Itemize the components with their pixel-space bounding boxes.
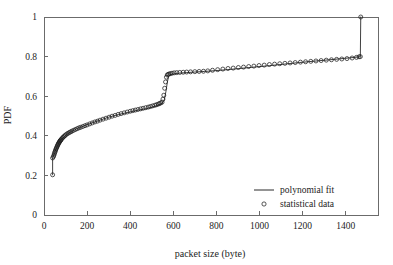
y-axis-title: PDF [2, 105, 13, 124]
data-point [283, 61, 287, 65]
data-point [211, 68, 215, 72]
legend-circle-swatch [262, 202, 266, 206]
polynomial-fit-line [53, 17, 361, 175]
y-tick-label: 0.6 [25, 92, 37, 102]
legend-label-polynomial-fit: polynomial fit [280, 185, 334, 195]
x-axis-ticks [44, 211, 346, 215]
x-axis-tick-labels: 0200400600800100012001400 [42, 221, 356, 231]
y-tick-label: 0.2 [25, 171, 37, 181]
chart-canvas: 0200400600800100012001400 00.20.40.60.81… [0, 0, 393, 265]
x-tick-label: 1400 [336, 221, 355, 231]
x-tick-label: 800 [209, 221, 224, 231]
y-tick-label: 1 [32, 12, 37, 22]
x-tick-label: 600 [166, 221, 181, 231]
x-tick-label: 400 [123, 221, 138, 231]
statistical-data-markers [51, 15, 363, 177]
caption-fragment [12, 258, 383, 264]
x-tick-label: 1200 [293, 221, 312, 231]
legend-label-statistical-data: statistical data [280, 199, 335, 209]
y-axis-ticks [44, 17, 48, 215]
legend: polynomial fit statistical data [254, 185, 335, 209]
x-tick-label: 200 [80, 221, 95, 231]
data-point [164, 80, 168, 84]
x-tick-label: 1000 [250, 221, 269, 231]
y-tick-label: 0 [32, 210, 37, 220]
y-axis-tick-labels: 00.20.40.60.81 [25, 12, 37, 220]
data-point [216, 68, 220, 72]
y-tick-label: 0.4 [25, 131, 37, 141]
x-tick-label: 0 [42, 221, 47, 231]
data-point [278, 62, 282, 66]
y-tick-label: 0.8 [25, 52, 37, 62]
figure-container: 0200400600800100012001400 00.20.40.60.81… [0, 0, 393, 265]
